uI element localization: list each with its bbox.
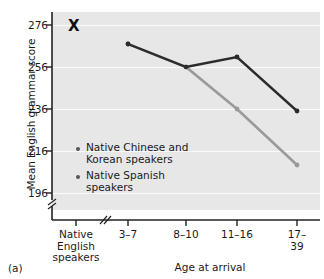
x-tick-label-8-10: 8–10 [173, 229, 198, 241]
x-tick-label-11-16: 11–16 [221, 229, 253, 241]
series-point-chinese-korean [184, 65, 188, 69]
series-point-chinese-korean [126, 42, 131, 47]
y-tick-label: 276 [14, 19, 48, 31]
series-line-chinese-korean [128, 44, 297, 111]
panel-label: (a) [8, 262, 23, 274]
series-point-chinese-korean [295, 109, 300, 114]
legend-label-chinese-korean: Native Chinese and Korean speakers [86, 142, 188, 165]
y-tick-labels: 276 256 236 216 196 [12, 0, 48, 279]
x-tick-label-native: Native English speakers [44, 229, 108, 264]
series-point-chinese-korean [235, 55, 240, 60]
y-tick-label: 256 [14, 61, 48, 73]
series-point-spanish [235, 107, 240, 112]
x-axis-title: Age at arrival [110, 261, 310, 273]
x-tick-label-native-text: Native English speakers [46, 229, 106, 264]
x-tick-label-3-7: 3–7 [119, 229, 138, 241]
y-tick-label: 216 [14, 145, 48, 157]
x-tick-label-17-39: 17–39 [284, 229, 311, 252]
y-tick-label: 196 [14, 187, 48, 199]
legend-marker-chinese-korean [76, 147, 80, 151]
y-tick-label: 236 [14, 103, 48, 115]
legend-label-spanish: Native Spanish speakers [86, 170, 165, 193]
legend-marker-spanish [76, 175, 80, 179]
series-point-spanish [295, 163, 300, 168]
chart-figure: X Mean [0, 0, 324, 279]
